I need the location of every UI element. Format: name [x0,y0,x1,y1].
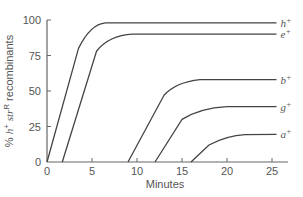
x-tick-label: 15 [176,165,188,177]
series-label-e: e+ [281,27,291,40]
x-tick-label: 25 [266,165,278,177]
series-line-b [128,80,277,162]
y-tick-label: 100 [23,14,41,26]
series-line-h [47,23,277,162]
y-tick-label: 25 [29,121,41,133]
series-line-a [191,134,277,162]
series-line-e [62,34,276,162]
series-label-g: g+ [281,100,292,113]
y-tick-label: 75 [29,50,41,62]
y-tick-label: 0 [35,156,41,168]
x-axis-title: Minutes [146,178,185,190]
series-labels: h+e+b+g+a+ [281,16,292,140]
x-tick-label: 0 [44,165,50,177]
axes: 05101520250255075100 [23,14,288,177]
y-tick-label: 50 [29,85,41,97]
x-tick-label: 5 [89,165,95,177]
recombinants-line-chart: 05101520250255075100 h+e+b+g+a+ Minutes … [0,0,303,197]
series-label-a: a+ [281,127,292,140]
series-lines [47,23,277,162]
y-axis-title: % h+ strR recombinants [2,34,15,147]
x-tick-label: 10 [131,165,143,177]
series-label-b: b+ [281,73,292,86]
x-tick-label: 20 [221,165,233,177]
